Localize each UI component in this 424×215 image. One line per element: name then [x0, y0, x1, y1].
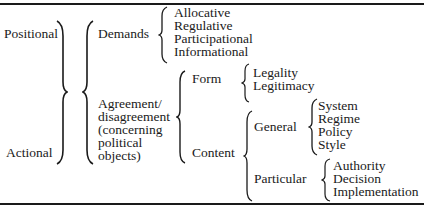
brace-agreement-icon — [176, 70, 186, 164]
demand-item: Informational — [174, 45, 248, 59]
brace-particular-icon — [321, 158, 331, 202]
particular-item: Implementation — [333, 185, 418, 199]
brace-level2-icon — [82, 20, 94, 165]
general-item: Style — [318, 138, 346, 152]
label-particular: Particular — [254, 172, 306, 186]
bottom-rule — [0, 203, 424, 205]
label-demands: Demands — [98, 27, 149, 41]
label-content: Content — [192, 146, 235, 160]
brace-form-icon — [241, 63, 250, 103]
brace-level1-icon — [56, 20, 68, 165]
label-actional: Actional — [6, 146, 53, 160]
form-item: Legitimacy — [253, 79, 314, 93]
brace-general-icon — [308, 98, 318, 156]
label-positional: Positional — [4, 27, 58, 41]
brace-demands-icon — [158, 6, 168, 64]
label-general: General — [254, 120, 297, 134]
label-form: Form — [192, 72, 221, 86]
brace-content-icon — [243, 110, 253, 202]
label-agreement: objects) — [98, 149, 141, 163]
